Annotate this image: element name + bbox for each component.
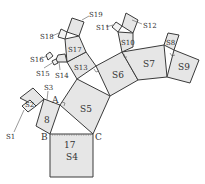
leader-s3 — [47, 91, 48, 100]
label-s13: S13 — [74, 64, 88, 72]
label-s15: S15 — [36, 70, 50, 78]
label-s4: S4 — [66, 152, 78, 162]
label-s3: S3 — [44, 84, 53, 92]
leader-s14 — [59, 62, 60, 70]
label-s11: S11 — [96, 24, 110, 32]
label-s7: S7 — [143, 59, 155, 69]
square-s19 — [67, 18, 84, 36]
leader-s1 — [14, 110, 24, 132]
label-s19: S19 — [89, 11, 103, 19]
leader-s15 — [44, 63, 52, 68]
square-s11 — [112, 22, 122, 32]
square-s16 — [46, 52, 53, 60]
label-s14: S14 — [55, 72, 69, 80]
pythagorean-tree-diagram: S4 17 S5 8 A B C S3 S2 S1 S6 S7 S8 S9 S1… — [0, 0, 205, 184]
label-point-a: A — [51, 95, 59, 105]
label-s17: S17 — [68, 46, 82, 54]
label-s10: S10 — [121, 39, 135, 47]
leader-s19 — [82, 16, 89, 20]
label-8: 8 — [44, 115, 50, 125]
label-s1: S1 — [6, 133, 15, 141]
label-point-c: C — [95, 132, 102, 142]
label-point-b: B — [41, 132, 48, 142]
label-s8: S8 — [166, 39, 175, 47]
label-17: 17 — [64, 140, 76, 150]
label-s2: S2 — [25, 101, 34, 109]
label-s9: S9 — [178, 62, 190, 72]
label-s12: S12 — [143, 22, 157, 30]
label-s5: S5 — [80, 104, 92, 114]
square-s18 — [58, 29, 67, 39]
square-s12 — [122, 13, 138, 33]
label-s6: S6 — [112, 70, 124, 80]
label-s18: S18 — [40, 33, 54, 41]
label-s16: S16 — [30, 56, 44, 64]
